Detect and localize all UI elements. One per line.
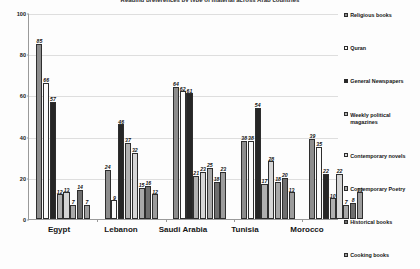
bar: 38 <box>241 141 247 219</box>
legend-swatch-icon <box>344 13 348 17</box>
chart-legend: Religious booksQuranGeneral NewspapersWe… <box>344 12 418 260</box>
legend-item-religious-books[interactable]: Religious books <box>344 12 418 20</box>
legend-swatch-icon <box>344 186 348 190</box>
legend-swatch-icon <box>344 46 348 50</box>
bar-value-label: 85 <box>37 39 43 44</box>
bar-chart: Reading preferences by type of material … <box>0 0 420 269</box>
bar: 37 <box>125 143 131 219</box>
bar-value-label: 13 <box>289 188 295 193</box>
ytick-label-100: 100 <box>17 11 26 17</box>
bar: 7 <box>84 205 90 219</box>
ytick-label-0: 0 <box>23 217 26 223</box>
legend-item-contemporary-poetry[interactable]: Contemporary Poetry <box>344 186 418 194</box>
bar-value-label: 64 <box>173 82 179 87</box>
category-label-morocco: Morocco <box>276 225 338 234</box>
bar-value-label: 9 <box>113 196 116 201</box>
bar-group-saudi-arabia: 6462612123251823 <box>166 14 234 219</box>
bar-value-label: 28 <box>268 157 274 162</box>
bar: 66 <box>43 83 49 219</box>
bar-value-label: 66 <box>43 78 49 83</box>
legend-label: Religious books <box>350 12 392 20</box>
legend-label: General Newspapers <box>350 78 403 86</box>
bar-value-label: 13 <box>64 188 70 193</box>
legend-label: Cooking books <box>350 252 389 260</box>
bar-value-label: 25 <box>207 163 213 168</box>
legend-swatch-icon <box>344 79 348 83</box>
bar-value-label: 14 <box>77 185 83 190</box>
bar-value-label: 18 <box>214 177 220 182</box>
bar-group-egypt: 85665712137147 <box>29 14 97 219</box>
category-axis: EgyptLebanonSaudi ArabiaTunisiaMorocco <box>28 225 338 234</box>
bar: 13 <box>289 192 295 219</box>
bar: 22 <box>336 174 342 219</box>
legend-item-quran[interactable]: Quran <box>344 45 418 53</box>
category-label-tunisia: Tunisia <box>214 225 276 234</box>
bar: 39 <box>309 139 315 219</box>
bar-value-label: 62 <box>180 87 186 92</box>
bar-value-label: 23 <box>220 167 226 172</box>
bar-groups: 8566571213714724946373215161264626121232… <box>29 14 338 219</box>
legend-item-weekly-political-magazines[interactable]: Weekly political magazines <box>344 112 418 128</box>
legend-label: Weekly political magazines <box>350 112 418 128</box>
bar-value-label: 24 <box>105 165 111 170</box>
bar-value-label: 37 <box>125 138 131 143</box>
bar: 57 <box>50 102 56 219</box>
bar: 38 <box>248 141 254 219</box>
bar-value-label: 7 <box>72 200 75 205</box>
legend-item-cooking-books[interactable]: Cooking books <box>344 252 418 260</box>
legend-label: Contemporary Poetry <box>350 186 405 194</box>
ytick-label-40: 40 <box>20 135 26 141</box>
bar-value-label: 15 <box>139 183 145 188</box>
bar: 32 <box>132 153 138 219</box>
bar: 7 <box>70 205 76 219</box>
bar: 24 <box>105 170 111 219</box>
bar-value-label: 32 <box>132 148 138 153</box>
bar-value-label: 20 <box>282 173 288 178</box>
bar: 12 <box>152 194 158 219</box>
bar-value-label: 7 <box>85 200 88 205</box>
bar: 62 <box>180 91 186 219</box>
bar-value-label: 61 <box>187 89 193 94</box>
bar-value-label: 17 <box>262 179 268 184</box>
bar: 35 <box>316 147 322 219</box>
legend-swatch-icon <box>344 153 348 157</box>
bar: 18 <box>275 182 281 219</box>
bar: 9 <box>111 200 117 219</box>
bar-value-label: 10 <box>330 194 336 199</box>
legend-swatch-icon <box>344 112 348 116</box>
legend-item-historical-books[interactable]: Historical books <box>344 219 418 227</box>
legend-label: Historical books <box>350 219 392 227</box>
ytick-label-80: 80 <box>20 52 26 58</box>
category-label-saudi-arabia: Saudi Arabia <box>152 225 214 234</box>
category-label-lebanon: Lebanon <box>90 225 152 234</box>
bar-value-label: 39 <box>310 134 316 139</box>
bar: 12 <box>57 194 63 219</box>
bar-value-label: 46 <box>118 120 124 125</box>
bar: 21 <box>193 176 199 219</box>
bar: 13 <box>63 192 69 219</box>
ytick-label-60: 60 <box>20 93 26 99</box>
bar-value-label: 23 <box>200 167 206 172</box>
bar: 23 <box>200 172 206 219</box>
bar: 46 <box>118 124 124 219</box>
bar: 25 <box>207 168 213 220</box>
bar: 18 <box>214 182 220 219</box>
legend-swatch-icon <box>344 253 348 257</box>
category-label-egypt: Egypt <box>28 225 90 234</box>
legend-item-general-newspapers[interactable]: General Newspapers <box>344 78 418 86</box>
legend-swatch-icon <box>344 220 348 224</box>
bar-value-label: 57 <box>50 97 56 102</box>
bar: 10 <box>330 198 336 219</box>
bar: 15 <box>139 188 145 219</box>
bar-value-label: 21 <box>193 171 199 176</box>
bar: 14 <box>77 190 83 219</box>
ytick-label-20: 20 <box>20 176 26 182</box>
bar-value-label: 38 <box>248 136 254 141</box>
bar-group-lebanon: 249463732151612 <box>97 14 165 219</box>
bar: 20 <box>282 178 288 219</box>
ytick-mark-0 <box>27 220 30 221</box>
plot-area: 020406080100 856657121371472494637321516… <box>28 14 338 220</box>
bar: 28 <box>268 161 274 219</box>
bar: 61 <box>186 93 192 219</box>
legend-item-contemporary-novels[interactable]: Contemporary novels <box>344 153 418 161</box>
